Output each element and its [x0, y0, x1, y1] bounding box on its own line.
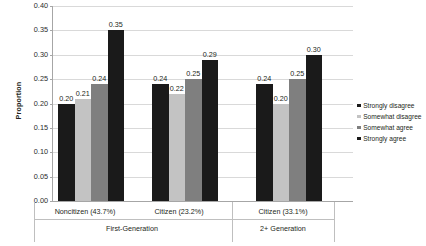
y-axis-tickmark [50, 30, 53, 31]
axis-separator-horizontal [34, 219, 334, 220]
category-axis-label: Citizen (33.1%) [232, 207, 334, 216]
bar[interactable]: 0.25 [289, 79, 306, 201]
legend-swatch-icon [357, 115, 361, 119]
y-axis-tickmark [50, 177, 53, 178]
legend-item[interactable]: Strongly disagree [357, 100, 426, 111]
legend-item[interactable]: Somewhat disagree [357, 111, 426, 122]
y-axis-tickmark [50, 152, 53, 153]
bar-value-label: 0.20 [274, 94, 288, 103]
legend-item-label: Strongly agree [363, 135, 406, 142]
bar[interactable]: 0.25 [185, 79, 202, 201]
y-axis-tickmark [50, 79, 53, 80]
legend-swatch-icon [357, 126, 361, 130]
bar-chart: Proportion 0.400.350.300.250.200.150.100… [0, 0, 426, 246]
bar-value-label: 0.24 [153, 74, 167, 83]
bar[interactable]: 0.30 [306, 55, 323, 201]
bar[interactable]: 0.21 [75, 99, 92, 201]
y-axis-tick-label: 0.05 [20, 173, 48, 181]
legend-item[interactable]: Somewhat agree [357, 122, 426, 133]
category-axis-label: Noncitizen (43.7%) [34, 207, 136, 216]
bar-value-label: 0.25 [186, 69, 200, 78]
y-axis-tickmark [50, 55, 53, 56]
bar-value-label: 0.22 [170, 84, 184, 93]
y-axis-tickmark [50, 6, 53, 7]
legend-swatch-icon [357, 137, 361, 141]
axis-separator [34, 202, 35, 242]
y-axis-tick-label: 0.20 [20, 100, 48, 108]
y-axis-tick-label: 0.35 [20, 26, 48, 34]
y-axis-tickmark [50, 104, 53, 105]
y-axis-tick-label: 0.30 [20, 51, 48, 59]
bar-value-label: 0.24 [257, 74, 271, 83]
y-axis-tick-label: 0.10 [20, 148, 48, 156]
category-axis-label: Citizen (23.2%) [128, 207, 230, 216]
y-axis-tickmark [50, 128, 53, 129]
bar[interactable]: 0.20 [273, 104, 290, 202]
bar[interactable]: 0.24 [152, 84, 169, 201]
bar[interactable]: 0.20 [58, 104, 75, 202]
bar[interactable]: 0.24 [91, 84, 108, 201]
legend-item-label: Somewhat agree [363, 124, 413, 131]
legend-swatch-icon [357, 104, 361, 108]
bar-value-label: 0.29 [203, 50, 217, 59]
bar-value-label: 0.21 [76, 89, 90, 98]
bar-value-label: 0.24 [92, 74, 106, 83]
bar-value-label: 0.20 [59, 94, 73, 103]
bar-value-label: 0.35 [109, 20, 123, 29]
bar[interactable]: 0.24 [256, 84, 273, 201]
legend-item[interactable]: Strongly agree [357, 133, 426, 144]
supergroup-axis-label: First-Generation [34, 224, 230, 233]
bar[interactable]: 0.29 [202, 60, 219, 201]
supergroup-axis-label: 2+ Generation [232, 224, 334, 233]
legend-item-label: Somewhat disagree [363, 113, 421, 120]
bar-value-label: 0.25 [290, 69, 304, 78]
bar-group: 0.240.200.250.30 [256, 6, 322, 201]
bar[interactable]: 0.22 [169, 94, 186, 201]
legend-item-label: Strongly disagree [363, 102, 414, 109]
bar-group: 0.200.210.240.35 [58, 6, 124, 201]
category-axis: Noncitizen (43.7%)Citizen (23.2%)Citizen… [52, 202, 352, 246]
y-axis-tick-label: 0.25 [20, 75, 48, 83]
y-axis-tick-label: 0.40 [20, 2, 48, 10]
plot-area: 0.200.210.240.350.240.220.250.290.240.20… [52, 6, 352, 202]
chart-legend: Strongly disagreeSomewhat disagreeSomewh… [357, 100, 426, 144]
bar[interactable]: 0.35 [108, 30, 125, 201]
bar-group: 0.240.220.250.29 [152, 6, 218, 201]
bar-value-label: 0.30 [307, 45, 321, 54]
y-axis-tick-label: 0.15 [20, 124, 48, 132]
axis-separator [334, 202, 335, 242]
axis-separator [232, 202, 233, 242]
